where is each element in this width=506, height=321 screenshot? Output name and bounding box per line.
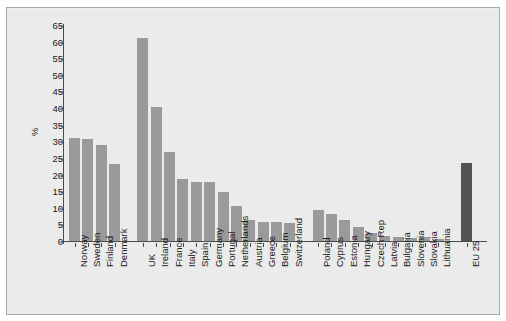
x-tick-label: Austria <box>254 237 264 267</box>
y-tick-mark <box>59 242 63 243</box>
x-tick-mark <box>156 243 157 247</box>
x-tick-label: Cyprus <box>335 237 345 267</box>
x-tick-label: Hungary <box>362 231 372 267</box>
y-tick-label: 0 <box>29 237 63 247</box>
y-tick-mark <box>59 59 63 60</box>
x-tick-label: Sweden <box>92 233 102 267</box>
y-tick-mark <box>59 26 63 27</box>
y-tick-label: 40 <box>29 104 63 114</box>
y-tick-label: 25 <box>29 154 63 164</box>
x-tick-label: Poland <box>322 237 332 267</box>
y-tick-mark <box>59 225 63 226</box>
y-tick-mark <box>59 192 63 193</box>
x-tick-label: Czech Rep <box>376 220 386 267</box>
y-tick-label: 30 <box>29 138 63 148</box>
x-tick-mark <box>196 243 197 247</box>
y-tick-label: 45 <box>29 88 63 98</box>
bar-ireland <box>151 107 162 241</box>
bar-france <box>164 152 175 241</box>
x-tick-label: Slovakia <box>429 231 439 267</box>
bar-italy <box>177 179 188 241</box>
bar-uk <box>137 38 148 241</box>
y-tick-label: 20 <box>29 171 63 181</box>
y-tick-mark <box>59 125 63 126</box>
x-tick-label: Italy <box>187 250 197 267</box>
bar-sweden <box>82 139 93 241</box>
x-tick-mark <box>467 243 468 247</box>
bar-poland <box>313 210 324 241</box>
x-tick-mark <box>75 243 76 247</box>
y-tick-mark <box>59 175 63 176</box>
x-tick-mark <box>143 243 144 247</box>
x-tick-label: Netherlands <box>240 216 250 267</box>
y-tick-mark <box>59 75 63 76</box>
y-tick-label: 55 <box>29 54 63 64</box>
x-tick-label: Spain <box>200 243 210 267</box>
x-tick-label: Ireland <box>160 238 170 267</box>
plot-area: 05101520253035404550556065 NorwaySwedenF… <box>63 26 487 242</box>
x-tick-label: Belgium <box>280 233 290 267</box>
y-tick-mark <box>59 208 63 209</box>
x-tick-label: Germany <box>214 228 224 267</box>
x-tick-mark <box>318 243 319 247</box>
chart-plot-plate: % 05101520253035404550556065 NorwaySwede… <box>6 7 500 315</box>
y-tick-mark <box>59 109 63 110</box>
bar-eu-25 <box>461 163 472 241</box>
x-tick-label: Portugal <box>227 232 237 267</box>
y-tick-label: 50 <box>29 71 63 81</box>
y-tick-label: 15 <box>29 187 63 197</box>
x-tick-label: Lithuania <box>442 228 452 267</box>
x-tick-label: Switzerland <box>294 218 304 267</box>
x-tick-label: Greece <box>267 236 277 267</box>
x-tick-label: Finland <box>105 236 115 267</box>
chart-figure: % 05101520253035404550556065 NorwaySwede… <box>0 0 506 321</box>
y-tick-label: 65 <box>29 21 63 31</box>
x-tick-label: Slovenia <box>416 231 426 267</box>
y-tick-mark <box>59 158 63 159</box>
x-tick-label: Bulgaria <box>402 232 412 267</box>
x-tick-label: France <box>174 237 184 267</box>
y-tick-mark <box>59 42 63 43</box>
x-tick-label: EU 25 <box>471 241 481 267</box>
y-tick-label: 5 <box>29 221 63 231</box>
y-tick-label: 60 <box>29 38 63 48</box>
y-tick-mark <box>59 92 63 93</box>
y-tick-label: 35 <box>29 121 63 131</box>
x-tick-label: Denmark <box>119 228 129 267</box>
y-tick-label: 10 <box>29 204 63 214</box>
x-tick-label: Estonia <box>349 235 359 267</box>
x-tick-label: Latvia <box>389 242 399 267</box>
bar-spain <box>191 182 202 241</box>
bar-norway <box>69 138 80 241</box>
y-axis-line <box>63 24 64 244</box>
y-tick-mark <box>59 142 63 143</box>
x-tick-label: Norway <box>79 235 89 267</box>
x-tick-label: UK <box>147 254 157 267</box>
bar-finland <box>96 145 107 241</box>
